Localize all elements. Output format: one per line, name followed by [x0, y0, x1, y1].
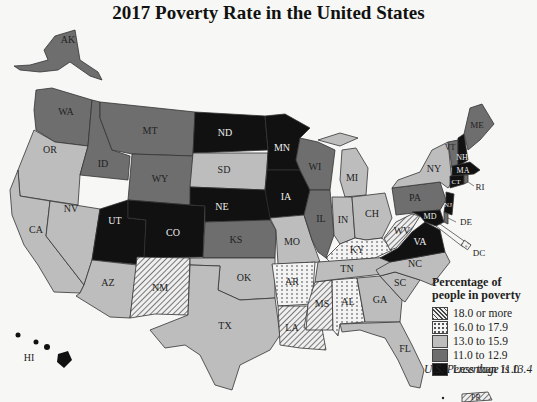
label-SD: SD [218, 164, 231, 175]
label-NV: NV [64, 203, 79, 214]
label-AR: AR [285, 276, 299, 287]
us-percentage-note: U.S. Percentage is 13.4 [424, 363, 532, 375]
legend-item: 13.0 to 15.9 [432, 334, 537, 348]
state-SD[interactable]: SD [190, 153, 268, 190]
label-CT: CT [452, 178, 462, 186]
state-IN[interactable]: IN [332, 197, 355, 244]
label-WI: WI [309, 161, 322, 172]
label-SC: SC [394, 277, 407, 288]
legend-item: 11.0 to 12.9 [432, 348, 537, 362]
swatch-dotted [432, 321, 448, 334]
state-WY[interactable]: WY [128, 154, 193, 205]
swatch-light [432, 335, 448, 348]
label-AL: AL [341, 296, 354, 307]
label-WA: WA [58, 106, 74, 117]
label-MO: MO [284, 236, 300, 247]
label-TN: TN [340, 263, 353, 274]
state-MT[interactable]: MT [100, 102, 195, 156]
label-NJ: NJ [444, 201, 452, 209]
label-NY: NY [427, 163, 441, 174]
label-GA: GA [373, 294, 388, 305]
label-IN: IN [338, 214, 349, 225]
label-UT: UT [108, 215, 121, 226]
label-KS: KS [230, 234, 243, 245]
territory-PR[interactable]: PR [442, 392, 492, 402]
label-MS: MS [315, 298, 329, 309]
label-IA: IA [281, 191, 292, 202]
label-WY: WY [152, 173, 169, 184]
label-KY: KY [350, 244, 364, 255]
state-AK[interactable]: AK [14, 30, 102, 80]
label-AK: AK [61, 34, 76, 45]
state-ND[interactable]: ND [193, 112, 268, 153]
label-IL: IL [316, 213, 325, 224]
label-OK: OK [237, 272, 252, 283]
label-CH: CH [365, 208, 379, 219]
label-MI: MI [346, 172, 358, 183]
label-OR: OR [43, 144, 57, 155]
swatch-medium [432, 349, 448, 362]
legend-item: 18.0 or more [432, 306, 537, 320]
label-LA: LA [285, 322, 299, 333]
label-RI: RI [476, 182, 485, 192]
state-CT[interactable]: CT [450, 175, 464, 188]
state-NM[interactable]: NM [130, 257, 190, 318]
label-CO: CO [166, 227, 180, 238]
state-HI[interactable]: HI [16, 333, 73, 369]
label-DE: DE [460, 217, 472, 227]
legend-item: 16.0 to 17.9 [432, 320, 537, 334]
label-AZ: AZ [101, 277, 114, 288]
label-MT: MT [143, 125, 158, 136]
legend-title: Percentage of people in poverty [432, 276, 537, 302]
label-MD: MD [424, 212, 437, 221]
label-ME: ME [470, 120, 484, 130]
label-HI: HI [24, 352, 35, 363]
state-ME[interactable]: ME [464, 104, 494, 150]
label-CA: CA [29, 224, 44, 235]
state-FL[interactable]: FL [340, 322, 424, 388]
label-TX: TX [218, 320, 232, 331]
label-VT: VT [445, 143, 456, 152]
label-NH: NH [456, 153, 468, 162]
state-CH[interactable]: CH [352, 193, 392, 240]
label-NE: NE [215, 201, 228, 212]
label-PA: PA [409, 192, 422, 203]
swatch-hatch [432, 307, 448, 320]
label-ND: ND [218, 127, 232, 138]
label-MA: MA [457, 166, 470, 175]
legend: Percentage of people in poverty 18.0 or … [432, 276, 537, 376]
label-NC: NC [408, 258, 422, 269]
label-VA: VA [413, 236, 427, 247]
state-DE[interactable]: DE [444, 212, 472, 227]
label-ID: ID [98, 158, 109, 169]
label-DC: DC [473, 248, 486, 258]
state-AR[interactable]: AR [272, 262, 315, 306]
label-PR: PR [471, 393, 481, 402]
label-WV: WV [394, 225, 411, 236]
state-RI[interactable]: RI [464, 175, 485, 192]
state-NY[interactable]: NY [392, 142, 452, 188]
label-NM: NM [152, 282, 168, 293]
state-NJ[interactable]: NJ [444, 192, 454, 215]
label-FL: FL [399, 343, 411, 354]
label-MN: MN [274, 142, 290, 153]
state-KS[interactable]: KS [203, 220, 276, 258]
